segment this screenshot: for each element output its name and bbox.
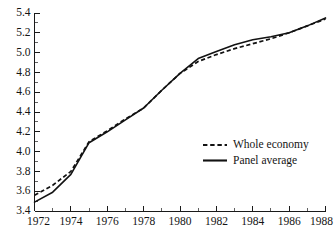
line-chart: 3.43.63.84.04.24.44.64.85.05.25.4 197219… — [0, 0, 334, 245]
y-tick-label: 4.2 — [16, 125, 31, 137]
y-tick-label: 3.6 — [16, 184, 31, 196]
x-tick-label: 1980 — [169, 215, 192, 227]
x-tick-label: 1986 — [278, 215, 301, 227]
y-tick-label: 5.2 — [16, 26, 31, 38]
legend-label: Whole economy — [233, 138, 309, 151]
legend-label: Panel average — [233, 154, 297, 167]
plot-background — [34, 13, 325, 211]
x-tick-label: 1984 — [241, 215, 264, 227]
y-tick-label: 4.8 — [16, 66, 31, 78]
x-tick-label: 1978 — [132, 215, 155, 227]
y-tick-label: 4.6 — [16, 85, 31, 97]
x-tick-label: 1988 — [310, 215, 333, 227]
y-tick-label: 4.0 — [16, 145, 31, 157]
x-tick-label: 1972 — [27, 215, 50, 227]
y-tick-label: 5.4 — [16, 6, 31, 18]
x-tick-label: 1974 — [59, 215, 82, 227]
y-tick-label: 3.8 — [16, 165, 31, 177]
y-tick-label: 5.0 — [16, 46, 31, 58]
x-tick-label: 1976 — [96, 215, 119, 227]
y-tick-label: 4.4 — [16, 105, 31, 117]
chart-container: 3.43.63.84.04.24.44.64.85.05.25.4 197219… — [0, 0, 334, 245]
x-tick-label: 1982 — [205, 215, 228, 227]
